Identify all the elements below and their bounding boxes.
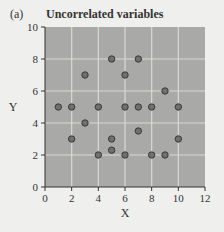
data-point [148, 104, 154, 110]
data-point [108, 136, 114, 142]
x-tick-label: 0 [42, 192, 48, 204]
data-point [82, 72, 88, 78]
data-point [122, 152, 128, 158]
data-point [55, 104, 61, 110]
x-tick-label: 2 [69, 192, 75, 204]
data-point [135, 56, 141, 62]
data-point [108, 56, 114, 62]
data-point [108, 147, 114, 153]
data-point [162, 88, 168, 94]
x-tick-label: 6 [122, 192, 128, 204]
y-tick-label: 8 [33, 53, 39, 65]
data-point [68, 104, 74, 110]
x-tick-label: 8 [149, 192, 155, 204]
y-tick-label: 10 [27, 21, 39, 33]
x-tick-label: 10 [173, 192, 185, 204]
data-point [82, 120, 88, 126]
data-point [175, 136, 181, 142]
data-point [135, 128, 141, 134]
x-tick-label: 4 [96, 192, 102, 204]
data-point [68, 136, 74, 142]
data-point [148, 152, 154, 158]
data-point [95, 152, 101, 158]
data-point [122, 72, 128, 78]
y-axis-title: Y [9, 100, 18, 114]
data-point [175, 104, 181, 110]
scatter-plot: 0246810120246810XY [0, 0, 224, 232]
y-tick-label: 0 [33, 181, 39, 193]
data-point [122, 104, 128, 110]
x-axis-title: X [121, 206, 130, 220]
y-tick-label: 2 [33, 149, 39, 161]
y-tick-label: 6 [33, 85, 39, 97]
x-tick-label: 12 [200, 192, 211, 204]
y-tick-label: 4 [33, 117, 39, 129]
data-point [95, 104, 101, 110]
data-point [135, 104, 141, 110]
data-point [162, 152, 168, 158]
